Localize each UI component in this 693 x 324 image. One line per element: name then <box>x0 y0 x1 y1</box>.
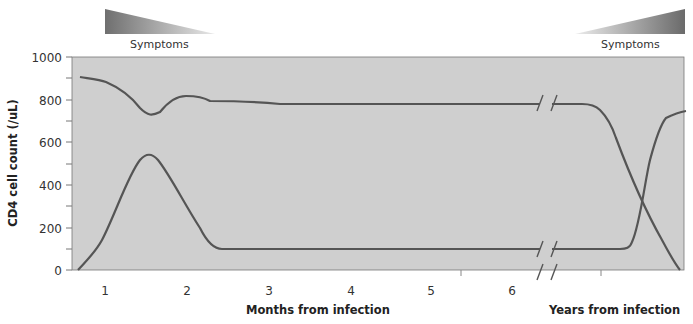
symptoms-label-left: Symptoms <box>130 38 189 51</box>
symptoms-label-right: Symptoms <box>601 38 660 51</box>
svg-text:800: 800 <box>39 94 62 108</box>
y-axis <box>66 57 72 270</box>
symptoms-wedge-right <box>575 9 685 34</box>
svg-text:400: 400 <box>39 179 62 193</box>
y-tick-labels: 0 200 400 600 800 1000 <box>31 51 62 278</box>
svg-text:600: 600 <box>39 136 62 150</box>
svg-text:1000: 1000 <box>31 51 62 65</box>
svg-text:4: 4 <box>347 284 355 298</box>
svg-text:200: 200 <box>39 222 62 236</box>
svg-text:2: 2 <box>183 284 191 298</box>
x-axis-title-years: Years from infection <box>548 303 680 317</box>
svg-text:1: 1 <box>101 284 109 298</box>
x-axis-ticks <box>461 270 601 276</box>
x-axis-title-months: Months from infection <box>246 303 390 317</box>
svg-text:6: 6 <box>508 284 516 298</box>
plot-area <box>72 57 684 270</box>
y-axis-title: CD4 cell count (/uL) <box>6 99 20 226</box>
cd4-chart: Symptoms Symptoms 0 200 400 600 800 1000… <box>0 0 693 324</box>
x-tick-labels: 1 2 3 4 5 6 <box>101 284 516 298</box>
svg-text:3: 3 <box>265 284 273 298</box>
svg-text:5: 5 <box>427 284 435 298</box>
svg-text:0: 0 <box>54 264 62 278</box>
symptoms-wedge-left <box>105 9 215 34</box>
